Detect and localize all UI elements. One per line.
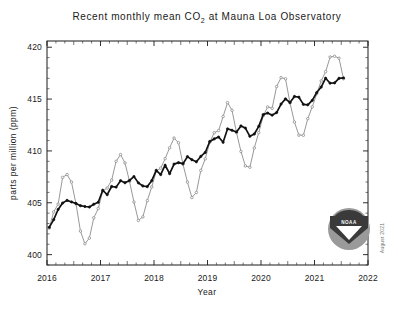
svg-text:410: 410 bbox=[27, 146, 42, 156]
y-axis-label: parts per million (ppm) bbox=[8, 106, 18, 200]
svg-text:2020: 2020 bbox=[251, 273, 271, 283]
noaa-logo: NOAA bbox=[328, 208, 370, 250]
chart-title: Recent monthly mean CO2 at Mauna Loa Obs… bbox=[73, 11, 342, 24]
svg-text:2022: 2022 bbox=[358, 273, 378, 283]
x-axis-label: Year bbox=[198, 287, 217, 297]
chart-background bbox=[0, 0, 398, 309]
chart-page: Recent monthly mean CO2 at Mauna Loa Obs… bbox=[0, 0, 398, 309]
logo-label: NOAA bbox=[341, 220, 357, 225]
svg-text:415: 415 bbox=[27, 94, 42, 104]
credit-date: August 2021 bbox=[379, 223, 385, 253]
svg-text:2017: 2017 bbox=[91, 273, 111, 283]
svg-text:405: 405 bbox=[27, 198, 42, 208]
svg-text:2016: 2016 bbox=[37, 273, 57, 283]
svg-text:2018: 2018 bbox=[144, 273, 164, 283]
svg-text:420: 420 bbox=[27, 42, 42, 52]
svg-text:400: 400 bbox=[27, 250, 42, 260]
svg-text:2019: 2019 bbox=[198, 273, 218, 283]
co2-line-chart: Recent monthly mean CO2 at Mauna Loa Obs… bbox=[0, 0, 398, 309]
svg-text:2021: 2021 bbox=[305, 273, 325, 283]
